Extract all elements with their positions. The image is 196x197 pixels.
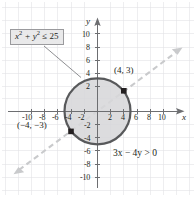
callout-tail: ≤ 25 <box>40 31 58 41</box>
x-tick-8: 8 <box>147 114 151 122</box>
point-label-4-3: (4, 3) <box>114 66 134 75</box>
x-tick-4: 4 <box>121 114 125 122</box>
x-tick-10: 10 <box>158 114 166 122</box>
point-label-neg4-neg3: (−4, −3) <box>17 121 47 130</box>
y-axis-label: y <box>86 17 90 26</box>
y-tick-neg2: -2 <box>84 122 90 130</box>
x-tick-neg6: -6 <box>52 114 58 122</box>
callout-leader-line <box>44 46 81 78</box>
point-marker-4-3 <box>121 88 127 94</box>
y-tick-neg6: -6 <box>84 148 90 156</box>
circle-inequality-callout: x2 + y2 ≤ 25 <box>10 29 64 46</box>
y-tick-neg8: -8 <box>84 161 90 169</box>
x-axis-label: x <box>182 113 186 122</box>
callout-plus-y: + y <box>22 31 37 41</box>
x-tick-neg4: -4 <box>65 114 71 122</box>
y-tick-4: 4 <box>86 70 90 78</box>
y-tick-8: 8 <box>86 44 90 52</box>
y-tick-2: 2 <box>86 83 90 91</box>
point-marker-neg4-neg3 <box>68 129 74 135</box>
y-tick-neg10: -10 <box>80 174 90 182</box>
graph-figure: x2 + y2 ≤ 25 y x -10 -8 -6 -4 -2 2 4 6 8… <box>0 0 196 197</box>
x-tick-6: 6 <box>134 114 138 122</box>
x-tick-2: 2 <box>108 114 112 122</box>
y-tick-6: 6 <box>86 57 90 65</box>
line-inequality-label: 3x − 4y > 0 <box>113 149 157 159</box>
y-tick-10: 10 <box>82 31 90 39</box>
y-tick-neg4: -4 <box>84 135 90 143</box>
